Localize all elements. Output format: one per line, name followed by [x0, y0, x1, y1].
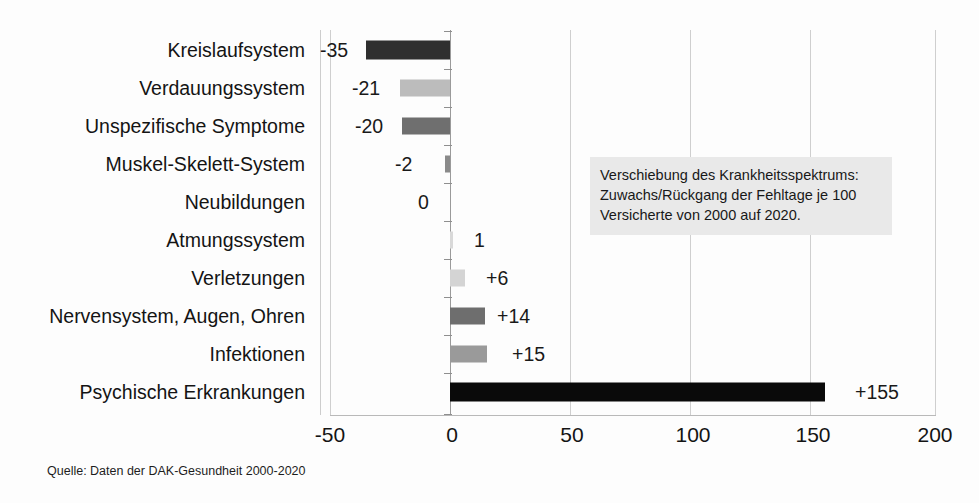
value-label-5: 1: [474, 229, 485, 251]
value-label-9: +155: [855, 381, 899, 403]
value-label-8: +15: [512, 343, 545, 365]
bar-9: [450, 383, 825, 402]
bar-5: [450, 232, 453, 249]
category-label-1: Verdauungssystem: [0, 76, 305, 100]
bar-0: [366, 41, 450, 60]
value-label-1: -21: [352, 77, 380, 99]
value-label-2: -20: [355, 115, 383, 137]
bar-row-verdauungssystem: Verdauungssystem -21: [0, 69, 979, 107]
annotation-line-2: Zuwachs/Rückgang der Fehltage je 100: [600, 185, 882, 205]
x-tick-label-4: 150: [773, 422, 853, 448]
x-tick-label-0: -50: [290, 422, 370, 448]
category-label-0: Kreislaufsystem: [0, 38, 305, 62]
value-label-3: -2: [395, 153, 412, 175]
bar-6: [450, 270, 465, 287]
bar-2: [402, 118, 450, 135]
category-label-7: Nervensystem, Augen, Ohren: [0, 304, 305, 328]
plot-area: Kreislaufsystem -35 Verdauungssystem -21…: [0, 0, 979, 503]
bar-row-verletzungen: Verletzungen +6: [0, 259, 979, 297]
bar-row-kreislaufsystem: Kreislaufsystem -35: [0, 31, 979, 69]
chart-page: Kreislaufsystem -35 Verdauungssystem -21…: [0, 0, 979, 503]
bar-7: [450, 308, 485, 325]
x-tick-label-5: 200: [895, 422, 975, 448]
bar-row-unspezifische-symptome: Unspezifische Symptome -20: [0, 107, 979, 145]
annotation-line-1: Verschiebung des Krankheitsspektrums:: [600, 165, 882, 185]
category-label-8: Infektionen: [0, 342, 305, 366]
category-label-9: Psychische Erkrankungen: [0, 380, 305, 404]
annotation-box: Verschiebung des Krankheitsspektrums: Zu…: [590, 157, 892, 235]
bar-1: [400, 80, 450, 97]
category-label-3: Muskel-Skelett-System: [0, 152, 305, 176]
x-axis-line: [330, 415, 936, 416]
bar-row-nervensystem-augen-ohren: Nervensystem, Augen, Ohren +14: [0, 297, 979, 335]
value-label-7: +14: [497, 305, 530, 327]
value-label-4: 0: [418, 191, 429, 213]
x-tick-label-2: 50: [532, 422, 612, 448]
category-label-4: Neubildungen: [0, 190, 305, 214]
category-label-6: Verletzungen: [0, 266, 305, 290]
axis-tick-10: [444, 414, 452, 415]
x-tick-label-3: 100: [653, 422, 733, 448]
value-label-0: -35: [320, 39, 348, 61]
x-tick-label-1: 0: [412, 422, 492, 448]
annotation-line-3: Versicherte von 2000 auf 2020.: [600, 205, 882, 225]
category-label-5: Atmungssystem: [0, 228, 305, 252]
value-label-6: +6: [486, 267, 508, 289]
bar-row-infektionen: Infektionen +15: [0, 335, 979, 373]
bar-8: [450, 346, 487, 363]
bar-3: [445, 156, 450, 173]
bar-row-psychische-erkrankungen: Psychische Erkrankungen +155: [0, 373, 979, 411]
category-label-2: Unspezifische Symptome: [0, 114, 305, 138]
source-note: Quelle: Daten der DAK-Gesundheit 2000-20…: [47, 463, 306, 479]
